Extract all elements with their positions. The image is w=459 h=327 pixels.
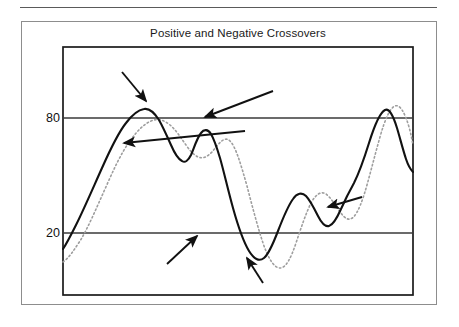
figure-container: Positive and Negative Crossovers 80 20 C…: [0, 0, 459, 327]
plot-area-border: [63, 47, 413, 295]
plot-svg: [0, 0, 459, 327]
